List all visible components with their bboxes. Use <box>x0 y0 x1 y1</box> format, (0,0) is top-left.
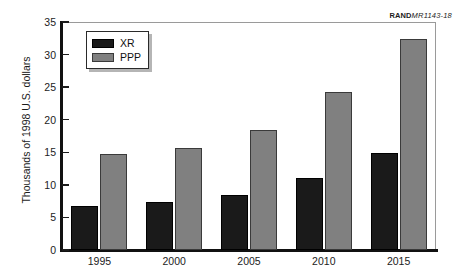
x-tick-label: 1995 <box>69 255 129 267</box>
y-tick-label: 30 <box>36 49 56 61</box>
legend-label-xr: XR <box>120 37 135 49</box>
bar-ppp-2015 <box>400 39 427 250</box>
bar-ppp-1995 <box>100 154 127 250</box>
bar-xr-2010 <box>296 178 323 250</box>
x-tick-label: 2010 <box>294 255 354 267</box>
legend: XR PPP <box>86 31 149 69</box>
y-tick-label: 0 <box>36 244 56 256</box>
legend-item-xr: XR <box>92 36 141 50</box>
bar-xr-2005 <box>221 195 248 250</box>
chart-page: RANDMR1143-18 Thousands of 1998 U.S. dol… <box>0 0 460 277</box>
legend-label-ppp: PPP <box>120 51 141 63</box>
y-tick-label: 5 <box>36 211 56 223</box>
y-tick-label: 10 <box>36 179 56 191</box>
y-tick-label: 20 <box>36 114 56 126</box>
legend-swatch-xr <box>92 39 114 48</box>
source-tag-org: RAND <box>389 11 411 20</box>
y-tick-label: 35 <box>36 16 56 28</box>
legend-item-ppp: PPP <box>92 50 141 64</box>
y-tick-label: 25 <box>36 81 56 93</box>
bar-ppp-2010 <box>325 92 352 250</box>
bar-ppp-2005 <box>250 130 277 251</box>
bar-xr-2000 <box>146 202 173 250</box>
x-tick-label: 2015 <box>369 255 429 267</box>
source-tag-code: MR1143-18 <box>412 11 452 20</box>
x-tick-label: 2005 <box>219 255 279 267</box>
bar-xr-1995 <box>71 206 98 250</box>
source-tag: RANDMR1143-18 <box>389 11 452 20</box>
bar-ppp-2000 <box>175 148 202 250</box>
x-tick-label: 2000 <box>144 255 204 267</box>
y-tick-label: 15 <box>36 146 56 158</box>
y-axis-title: Thousands of 1998 U.S. dollars <box>17 10 35 250</box>
bar-xr-2015 <box>371 153 398 250</box>
legend-swatch-ppp <box>92 53 114 62</box>
